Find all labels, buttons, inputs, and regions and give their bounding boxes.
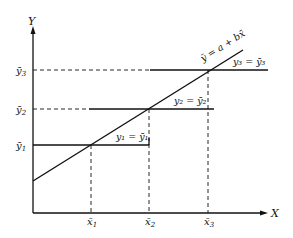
line-annotations: y₁ = ȳ₁ y₂ = ȳ₂ y₃ = ȳ₃ ȳ = a + bx̄ — [115, 27, 266, 142]
x-axis-label: X — [270, 207, 280, 220]
y-axis-label: Y — [28, 15, 37, 28]
annotation-y1: y₁ = ȳ₁ — [115, 131, 148, 142]
annotation-y3: y₃ = ȳ₃ — [232, 56, 266, 67]
x-tick-2: x̄2 — [145, 216, 156, 229]
x-tick-1: x̄1 — [87, 216, 97, 229]
y-tick-2: ȳ2 — [15, 104, 27, 117]
x-tick-labels: x̄1 x̄2 x̄3 — [87, 216, 215, 229]
y-tick-3: ȳ3 — [15, 65, 27, 78]
annotation-y2: y₂ = ȳ₂ — [173, 95, 207, 106]
x-tick-3: x̄3 — [204, 216, 215, 229]
y-tick-labels: ȳ3 ȳ2 ȳ1 — [15, 65, 27, 153]
regression-diagram: Y X ȳ3 ȳ2 ȳ1 x̄1 x̄2 x̄3 y₁ = ȳ₁ y₂ = ȳ₂… — [0, 0, 293, 238]
x-axis-arrow-icon — [260, 211, 268, 216]
y-tick-1: ȳ1 — [15, 140, 26, 153]
